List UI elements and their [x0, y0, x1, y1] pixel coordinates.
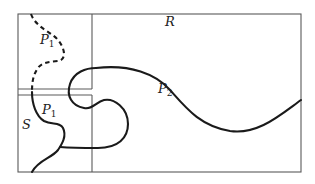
- path-p1-loop: [60, 68, 128, 148]
- region-s-text: S: [22, 117, 31, 132]
- label-path-p1-prime: P1′: [40, 33, 57, 49]
- p1-letter: P: [42, 102, 51, 117]
- path-p1-prime-dashed: [31, 14, 64, 92]
- p1-prime-mark: ′: [48, 31, 50, 42]
- label-path-p2: P2: [158, 82, 172, 98]
- p1-subscript: 1: [51, 109, 57, 119]
- region-r-text: R: [165, 14, 175, 29]
- label-region-s: S: [22, 118, 31, 131]
- p2-letter: P: [158, 81, 167, 96]
- path-p2: [96, 67, 301, 131]
- label-path-p1: P1: [42, 103, 56, 119]
- label-region-r: R: [165, 15, 175, 28]
- p2-subscript: 2: [167, 88, 173, 98]
